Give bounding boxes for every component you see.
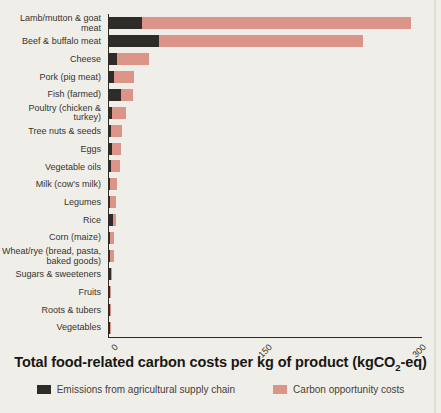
stacked-bar bbox=[109, 107, 126, 119]
stacked-bar bbox=[109, 232, 114, 244]
bar-segment-opportunity bbox=[111, 268, 112, 280]
bar-row bbox=[109, 32, 422, 50]
stacked-bar bbox=[109, 268, 112, 280]
stacked-bar bbox=[109, 17, 411, 29]
stacked-bar bbox=[109, 143, 121, 155]
category-label: Sugars & sweeteners bbox=[0, 266, 108, 284]
stacked-bar bbox=[109, 89, 133, 101]
bar-row bbox=[109, 247, 422, 265]
stacked-bar bbox=[109, 286, 111, 298]
category-labels: Lamb/mutton & goat meatBeef & buffalo me… bbox=[0, 14, 108, 337]
plot-area: 0150300 bbox=[108, 14, 422, 338]
legend-swatch-emissions bbox=[37, 385, 51, 394]
category-label: Legumes bbox=[0, 194, 108, 212]
bar-segment-opportunity bbox=[111, 160, 121, 172]
bar-row bbox=[109, 265, 422, 283]
bar-segment-opportunity bbox=[110, 322, 111, 334]
stacked-bar bbox=[109, 196, 116, 208]
category-label: Roots & tubers bbox=[0, 302, 108, 320]
bar-row bbox=[109, 319, 422, 337]
bar-row bbox=[109, 122, 422, 140]
bar-row bbox=[109, 283, 422, 301]
bar-segment-emissions bbox=[109, 89, 121, 101]
bar-segment-opportunity bbox=[111, 125, 122, 137]
stacked-bar bbox=[109, 178, 117, 190]
bar-segment-opportunity bbox=[110, 250, 114, 262]
chart-panel: Lamb/mutton & goat meatBeef & buffalo me… bbox=[0, 0, 441, 413]
x-axis-tick-label: 0 bbox=[109, 342, 120, 353]
category-label: Cheese bbox=[0, 51, 108, 69]
category-label: Pork (pig meat) bbox=[0, 68, 108, 86]
category-label: Eggs bbox=[0, 141, 108, 159]
category-label: Vegetable oils bbox=[0, 158, 108, 176]
legend-swatch-opportunity bbox=[273, 385, 287, 394]
bar-row bbox=[109, 50, 422, 68]
page-edge-shadow bbox=[434, 0, 436, 413]
stacked-bar bbox=[109, 214, 116, 226]
category-label: Lamb/mutton & goat meat bbox=[0, 14, 108, 33]
stacked-bar bbox=[109, 304, 111, 316]
bar-segment-opportunity bbox=[110, 232, 114, 244]
bar-segment-emissions bbox=[109, 53, 117, 65]
bar-row bbox=[109, 140, 422, 158]
bar-row bbox=[109, 104, 422, 122]
category-label: Poultry (chicken & turkey) bbox=[0, 104, 108, 123]
stacked-bar bbox=[109, 35, 363, 47]
bar-row bbox=[109, 175, 422, 193]
bar-segment-emissions bbox=[109, 35, 159, 47]
bar-row bbox=[109, 14, 422, 32]
bar-segment-opportunity bbox=[159, 35, 362, 47]
category-label: Tree nuts & seeds bbox=[0, 123, 108, 141]
category-label: Rice bbox=[0, 212, 108, 230]
x-axis-tick-label: 150 bbox=[256, 342, 274, 360]
bar-row bbox=[109, 68, 422, 86]
category-label: Milk (cow's milk) bbox=[0, 176, 108, 194]
bar-row bbox=[109, 229, 422, 247]
category-label: Vegetables bbox=[0, 319, 108, 337]
category-label: Fruits bbox=[0, 284, 108, 302]
category-label: Beef & buffalo meat bbox=[0, 33, 108, 51]
bar-segment-opportunity bbox=[110, 178, 117, 190]
bar-row bbox=[109, 86, 422, 104]
bar-segment-emissions bbox=[109, 17, 142, 29]
bar-segment-opportunity bbox=[114, 71, 134, 83]
bar-segment-opportunity bbox=[110, 304, 111, 316]
bar-row bbox=[109, 211, 422, 229]
bar-segment-opportunity bbox=[112, 107, 126, 119]
bar-segment-opportunity bbox=[110, 196, 116, 208]
bar-segment-opportunity bbox=[117, 53, 149, 65]
stacked-bar bbox=[109, 160, 120, 172]
category-label: Fish (farmed) bbox=[0, 86, 108, 104]
legend-item: Emissions from agricultural supply chain bbox=[37, 384, 235, 395]
bar-segment-opportunity bbox=[113, 214, 116, 226]
stacked-bar bbox=[109, 125, 122, 137]
bar-segment-opportunity bbox=[110, 286, 111, 298]
bar-row bbox=[109, 158, 422, 176]
stacked-bar bbox=[109, 250, 114, 262]
stacked-bar bbox=[109, 71, 134, 83]
x-axis: 0150300 bbox=[109, 337, 422, 359]
category-label: Wheat/rye (bread, pasta, baked goods) bbox=[0, 247, 108, 266]
chart-body: Lamb/mutton & goat meatBeef & buffalo me… bbox=[0, 0, 441, 338]
legend-label: Emissions from agricultural supply chain bbox=[57, 384, 235, 395]
bar-row bbox=[109, 193, 422, 211]
bar-segment-opportunity bbox=[142, 17, 411, 29]
bar-segment-opportunity bbox=[121, 89, 132, 101]
legend-label: Carbon opportunity costs bbox=[293, 384, 404, 395]
stacked-bar bbox=[109, 53, 149, 65]
stacked-bar bbox=[109, 322, 110, 334]
bar-segment-opportunity bbox=[112, 143, 122, 155]
category-label: Corn (maize) bbox=[0, 229, 108, 247]
legend: Emissions from agricultural supply chain… bbox=[0, 384, 441, 395]
bar-row bbox=[109, 301, 422, 319]
legend-item: Carbon opportunity costs bbox=[273, 384, 404, 395]
